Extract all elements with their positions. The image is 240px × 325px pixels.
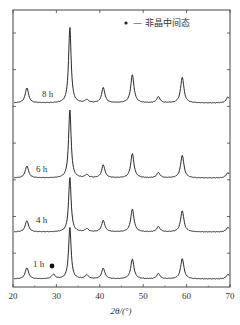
amorphous-marker-icon [50,264,55,269]
trace-label: 4 h [36,215,48,225]
plot-frame [13,10,230,287]
x-tick-label: 50 [139,291,149,301]
xrd-chart: 203040506070 8 h6 h4 h1 h — 非晶中间态 2θ/(°) [0,0,240,325]
xrd-trace-1h [14,228,229,280]
legend-marker-icon [124,21,127,24]
legend: — 非晶中间态 [124,17,189,28]
trace-label: 8 h [42,89,54,99]
legend-label: — 非晶中间态 [133,17,190,28]
x-axis-title: 2θ/(°) [110,306,131,316]
x-tick-label: 60 [182,291,192,301]
x-tick-label: 40 [95,291,105,301]
x-tick-label: 30 [52,291,62,301]
xrd-traces [14,28,229,280]
x-tick-label: 70 [226,291,236,301]
trace-labels: 8 h6 h4 h1 h [33,89,54,269]
axis-ticks: 203040506070 [9,10,236,301]
trace-label: 6 h [36,164,48,174]
trace-label: 1 h [33,259,45,269]
x-tick-label: 20 [9,291,19,301]
